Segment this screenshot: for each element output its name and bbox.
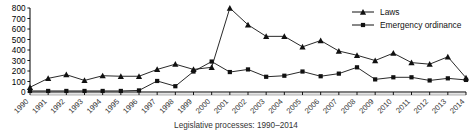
x-tick-label: 1993 (67, 97, 85, 115)
triangle-marker-icon (172, 61, 178, 67)
y-tick-label: 300 (12, 57, 26, 66)
square-marker-icon (82, 89, 86, 93)
x-tick-label: 1997 (139, 97, 157, 115)
square-marker-icon (246, 67, 250, 71)
square-marker-icon (228, 70, 232, 74)
triangle-marker-icon (299, 44, 305, 50)
x-tick-label: 1990 (12, 97, 30, 115)
square-marker-icon (373, 77, 377, 81)
x-tick-label: 2012 (412, 97, 430, 115)
square-marker-icon (119, 89, 123, 93)
y-tick-label: 500 (12, 36, 26, 45)
square-marker-icon (101, 89, 105, 93)
triangle-marker-icon (336, 48, 342, 54)
square-marker-icon (264, 75, 268, 79)
y-tick-label: 600 (12, 25, 26, 34)
legend-label: Emergency ordinance (380, 20, 462, 30)
y-tick-label: 0 (21, 88, 26, 97)
x-tick-label: 2002 (230, 97, 248, 115)
chart-caption: Legislative processes: 1990–2014 (174, 121, 298, 130)
line-chart: 0100200300400500600700800199019911992199… (0, 0, 472, 134)
triangle-marker-icon (209, 64, 215, 70)
square-marker-icon (28, 89, 32, 93)
square-marker-icon (361, 23, 365, 27)
triangle-marker-icon (227, 5, 233, 11)
x-tick-label: 2008 (339, 97, 357, 115)
square-marker-icon (155, 79, 159, 83)
square-marker-icon (46, 89, 50, 93)
x-tick-label: 1991 (30, 97, 48, 115)
square-marker-icon (409, 75, 413, 79)
y-tick-label: 200 (12, 67, 26, 76)
x-tick-label: 2003 (248, 97, 266, 115)
square-marker-icon (446, 76, 450, 80)
legend-label: Laws (380, 7, 400, 17)
series-line (30, 62, 466, 91)
square-marker-icon (64, 89, 68, 93)
x-tick-label: 1996 (121, 97, 139, 115)
x-tick-label: 2011 (394, 97, 412, 115)
y-tick-label: 400 (12, 46, 26, 55)
x-tick-label: 2007 (321, 97, 339, 115)
square-marker-icon (137, 88, 141, 92)
x-tick-label: 1995 (103, 97, 121, 115)
square-marker-icon (428, 78, 432, 82)
x-tick-label: 1998 (157, 97, 175, 115)
x-tick-label: 2014 (448, 97, 466, 115)
square-marker-icon (210, 59, 214, 63)
x-tick-label: 2005 (285, 97, 303, 115)
triangle-marker-icon (390, 50, 396, 56)
y-tick-label: 700 (12, 15, 26, 24)
chart-legend: LawsEmergency ordinance (352, 7, 462, 30)
series-emergency-ordinance (28, 59, 468, 93)
y-tick-label: 800 (12, 4, 26, 13)
x-tick-label: 2004 (266, 97, 284, 115)
triangle-marker-icon (445, 54, 451, 60)
square-marker-icon (337, 72, 341, 76)
x-tick-label: 1994 (85, 97, 103, 115)
square-marker-icon (300, 69, 304, 73)
x-tick-label: 1999 (176, 97, 194, 115)
square-marker-icon (391, 75, 395, 79)
x-tick-label: 2000 (194, 97, 212, 115)
square-marker-icon (173, 84, 177, 88)
triangle-marker-icon (318, 37, 324, 43)
chart-figure: 0100200300400500600700800199019911992199… (0, 0, 472, 134)
x-tick-label: 2001 (212, 97, 230, 115)
y-tick-label: 100 (12, 78, 26, 87)
triangle-marker-icon (63, 72, 69, 78)
x-tick-label: 2013 (430, 97, 448, 115)
x-tick-label: 2009 (357, 97, 375, 115)
square-marker-icon (191, 69, 195, 73)
square-marker-icon (355, 65, 359, 69)
square-marker-icon (282, 74, 286, 78)
x-tick-label: 2006 (303, 97, 321, 115)
x-tick-label: 2010 (375, 97, 393, 115)
square-marker-icon (464, 78, 468, 82)
x-tick-label: 1992 (48, 97, 66, 115)
square-marker-icon (319, 74, 323, 78)
